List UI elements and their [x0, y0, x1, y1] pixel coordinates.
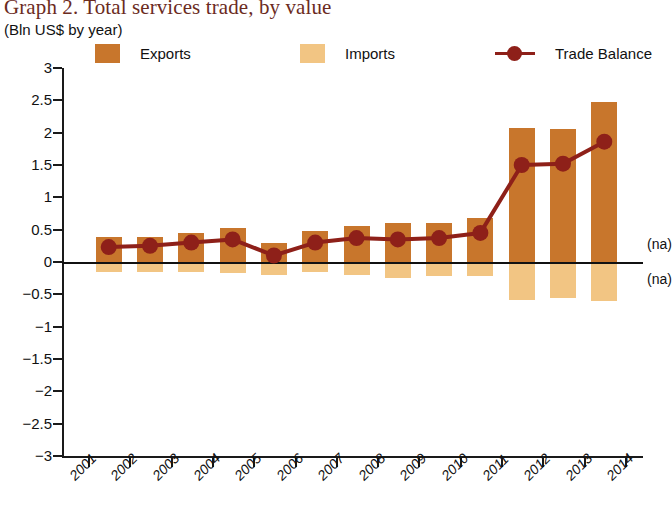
y-axis-tick — [53, 164, 62, 166]
trade-balance-marker — [596, 134, 612, 150]
chart-plot-area: 32.521.510.50−0.5−1−1.5−2−2.5−3 20012002… — [62, 68, 578, 458]
y-axis-tick — [53, 261, 62, 263]
legend-item-imports: Imports — [300, 42, 395, 64]
y-axis-tick — [53, 423, 62, 425]
trade-balance-marker — [225, 231, 241, 247]
y-axis-tick — [53, 99, 62, 101]
y-axis-tick-label: 0 — [6, 253, 52, 270]
trade-balance-marker — [555, 156, 571, 172]
y-axis-tick — [53, 196, 62, 198]
trade-balance-marker — [472, 225, 488, 241]
legend-label-imports: Imports — [345, 45, 395, 62]
y-axis-tick — [53, 455, 62, 457]
y-axis-tick-label: 3 — [6, 59, 52, 76]
trade-balance-line-marker-icon — [495, 44, 535, 63]
na-label-lower: (na) — [647, 271, 672, 287]
y-axis-tick — [53, 229, 62, 231]
trade-balance-marker — [390, 231, 406, 247]
chart-subtitle: (Bln US$ by year) — [4, 21, 564, 38]
page-title: Graph 2. Total services trade, by value — [4, 0, 564, 18]
y-axis-tick-label: 1.5 — [6, 156, 52, 173]
trade-balance-marker — [431, 230, 447, 246]
y-axis-tick-label: −1 — [6, 318, 52, 335]
trade-balance-marker — [101, 239, 117, 255]
legend-label-exports: Exports — [140, 45, 191, 62]
y-axis-tick — [53, 293, 62, 295]
y-axis-tick — [53, 358, 62, 360]
y-axis-tick — [53, 390, 62, 392]
trade-balance-marker — [514, 157, 530, 173]
legend-label-trade-balance: Trade Balance — [555, 45, 652, 62]
legend-item-trade-balance: Trade Balance — [495, 42, 652, 64]
y-axis-tick-label: 1 — [6, 188, 52, 205]
y-axis-tick-label: 2.5 — [6, 91, 52, 108]
trade-balance-marker — [307, 235, 323, 251]
y-axis-tick-label: 2 — [6, 124, 52, 141]
trade-balance-marker — [142, 238, 158, 254]
legend-item-exports: Exports — [95, 42, 191, 64]
y-axis-tick-label: 0.5 — [6, 221, 52, 238]
trade-balance-marker — [183, 235, 199, 251]
y-axis-tick-label: −0.5 — [6, 285, 52, 302]
exports-color-swatch — [95, 44, 120, 63]
trade-balance-marker — [266, 248, 282, 264]
y-axis-tick — [53, 326, 62, 328]
y-axis-tick-label: −3 — [6, 447, 52, 464]
chart-legend: Exports Imports Trade Balance — [95, 42, 635, 64]
trade-balance-line — [62, 68, 643, 458]
y-axis-tick-label: −2 — [6, 382, 52, 399]
na-label-upper: (na) — [647, 236, 672, 252]
title-block: Graph 2. Total services trade, by value … — [4, 0, 564, 38]
imports-color-swatch — [300, 44, 325, 63]
y-axis-tick — [53, 132, 62, 134]
y-axis-tick-label: −1.5 — [6, 350, 52, 367]
y-axis-tick-label: −2.5 — [6, 415, 52, 432]
y-axis-tick — [53, 67, 62, 69]
trade-balance-marker — [349, 230, 365, 246]
